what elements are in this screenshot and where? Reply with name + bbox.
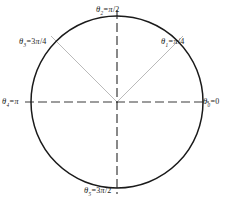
angle-label-theta-4: θ4=π <box>2 97 19 108</box>
figure-background <box>0 0 232 206</box>
angle-label-theta-1: θ1=π/4 <box>161 37 184 48</box>
unit-circle-figure: θ0=0 θ1=π/4 θ2=π/2 θ3=3π/4 θ4=π θ5=3π/2 <box>0 0 232 206</box>
angle-denominator-3: /4 <box>40 37 46 46</box>
angle-denominator-1: /4 <box>178 37 184 46</box>
angle-label-theta-2: θ2=π/2 <box>96 5 119 16</box>
angle-label-theta-0: θ0=0 <box>203 97 219 108</box>
angle-denominator-5: /2 <box>105 186 111 195</box>
angle-label-theta-5: θ5=3π/2 <box>84 186 111 197</box>
circle-diagram-canvas <box>0 0 232 206</box>
circle-center-point <box>116 101 118 103</box>
angle-value-0: 0 <box>215 97 219 106</box>
angle-label-theta-3: θ3=3π/4 <box>19 37 46 48</box>
pi-symbol-4: π <box>14 97 19 106</box>
angle-denominator-2: /2 <box>113 5 119 14</box>
